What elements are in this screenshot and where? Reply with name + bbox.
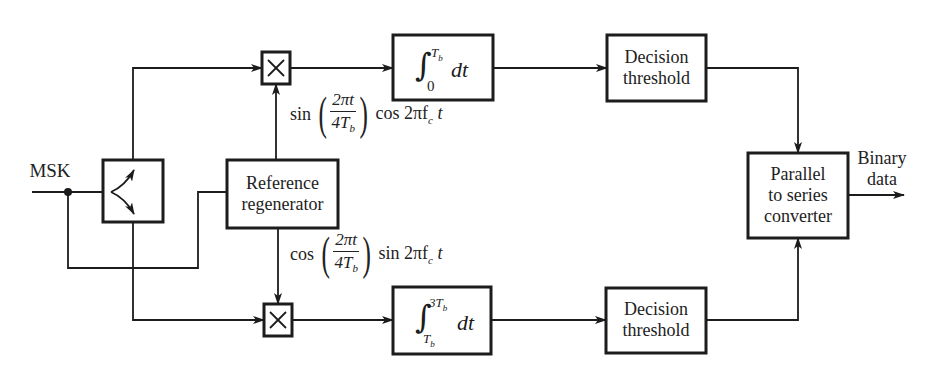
integral-sign-icon: ∫ (415, 49, 432, 81)
left-paren: ( (321, 231, 329, 277)
output-label-line-2: data (852, 169, 912, 190)
integral-lower-limit: Tb (423, 331, 435, 349)
input-label: MSK (28, 160, 72, 181)
fraction: 2πt 4Tb (333, 230, 359, 278)
formula-func2: sin 2πfc t (378, 243, 442, 263)
formula-func2: cos 2πfc t (375, 103, 442, 123)
fraction-numerator: 2πt (330, 90, 356, 112)
reference-line-1: Reference (227, 173, 338, 194)
integrand: dt (451, 57, 468, 83)
integral-upper-limit: Tb (431, 45, 443, 63)
decision-top-line-1: Decision (607, 47, 706, 68)
decision-top-line-2: threshold (607, 68, 706, 89)
converter-line-1: Parallel (748, 164, 848, 185)
left-paren: ( (318, 91, 326, 137)
output-label: Binary data (852, 148, 912, 190)
top-branch-line (133, 68, 262, 160)
reference-line-2: regenerator (227, 194, 338, 215)
decision-bottom-line-2: threshold (606, 320, 706, 341)
converter-line-2: to series (748, 185, 848, 206)
decision-top-label: Decision threshold (607, 47, 706, 89)
decision-bottom-to-converter (706, 238, 798, 320)
fraction-denominator: 4Tb (333, 252, 359, 278)
converter-label: Parallel to series converter (748, 164, 848, 227)
converter-line-3: converter (748, 206, 848, 227)
fraction-denominator: 4Tb (330, 112, 356, 138)
fraction: 2πt 4Tb (330, 90, 356, 138)
decision-bottom-label: Decision threshold (606, 299, 706, 341)
reference-regenerator-label: Reference regenerator (227, 173, 338, 215)
integrand: dt (457, 310, 474, 336)
output-label-line-1: Binary (852, 148, 912, 169)
right-paren: ) (363, 231, 371, 277)
formula-func1: sin (290, 104, 311, 124)
integrator-bottom-expression: ∫ 3Tb Tb dt (393, 287, 491, 354)
fraction-numerator: 2πt (333, 230, 359, 252)
decision-top-to-converter (706, 68, 798, 153)
bottom-reference-signal-formula: cos ( 2πt 4Tb ) sin 2πfc t (290, 230, 442, 278)
top-reference-signal-formula: sin ( 2πt 4Tb ) cos 2πfc t (290, 90, 442, 138)
integral-upper-limit: 3Tb (429, 295, 447, 313)
decision-bottom-line-1: Decision (606, 299, 706, 320)
formula-func1: cos (290, 244, 314, 264)
right-paren: ) (360, 91, 368, 137)
